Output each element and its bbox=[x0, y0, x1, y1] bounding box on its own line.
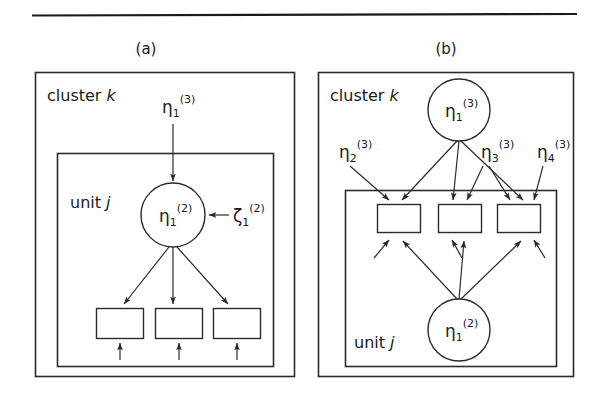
panel-b-indicator-box-3 bbox=[498, 205, 541, 233]
panel-b-edge-eta3-to-box2 bbox=[467, 166, 483, 200]
panel-a-cluster-label: cluster k bbox=[47, 86, 117, 105]
panel-a-indicator-box-1 bbox=[97, 309, 144, 339]
panel-b-eta2-3-label: η2(3) bbox=[339, 138, 372, 165]
panel-a-eta1-3-label: η1(3) bbox=[162, 93, 195, 120]
panel-a-edge-eta2-to-box1 bbox=[124, 247, 169, 304]
panel-b-eta3-3-label: η3(3) bbox=[481, 138, 514, 165]
panel-b-residual-arrow-1 bbox=[374, 240, 389, 258]
panel-b-eta4-3-label: η4(3) bbox=[537, 138, 570, 165]
panel-a-zeta1-2-label: ζ1(2) bbox=[233, 202, 265, 229]
figure-container: (a) cluster k unit j η1(3) η1(2) ζ1(2) bbox=[0, 0, 607, 393]
panel-a: (a) cluster k unit j η1(3) η1(2) ζ1(2) bbox=[36, 40, 295, 377]
panel-b-indicator-box-2 bbox=[439, 205, 482, 233]
panel-b-edge-unit-to-box2 bbox=[459, 241, 464, 299]
panel-a-latent-node bbox=[141, 183, 205, 247]
panel-b-cluster-label: cluster k bbox=[330, 86, 400, 105]
panel-b-indicator-box-1 bbox=[378, 205, 421, 233]
panel-b-cluster-latent-node bbox=[428, 79, 490, 141]
panel-a-indicator-box-3 bbox=[214, 309, 261, 339]
panel-b-unit-latent-node bbox=[428, 299, 490, 361]
panel-b-edge-eta3-to-box3 bbox=[489, 166, 510, 200]
panel-a-indicator-box-2 bbox=[156, 309, 203, 339]
panel-b: (b) cluster k unit j η1(3) η2(3) η3(3) η… bbox=[319, 40, 574, 377]
panel-b-edge-unit-to-box3 bbox=[461, 241, 521, 299]
panel-a-edge-eta2-to-box3 bbox=[177, 247, 228, 304]
panel-a-unit-label: unit j bbox=[70, 193, 111, 212]
panel-a-label: (a) bbox=[136, 40, 157, 58]
panel-b-unit-label: unit j bbox=[354, 333, 395, 352]
top-horizontal-rule bbox=[32, 14, 577, 16]
panel-b-edge-eta4-to-box3 bbox=[534, 166, 543, 200]
panel-b-residual-arrow-2 bbox=[452, 240, 462, 258]
panel-b-edge-unit-to-box1 bbox=[403, 241, 457, 299]
panel-b-edge-eta2-to-box1 bbox=[350, 166, 389, 200]
panel-b-residual-arrow-3 bbox=[534, 240, 545, 258]
panel-b-label: (b) bbox=[435, 40, 456, 58]
